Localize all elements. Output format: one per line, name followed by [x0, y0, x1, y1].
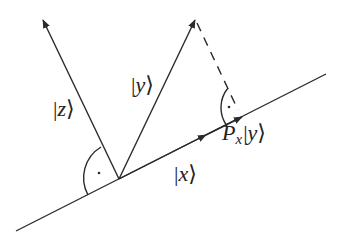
projection-diagram: |z⟩ |y⟩ |x⟩ Px|y⟩	[0, 0, 344, 244]
dashed-projection-line	[197, 23, 238, 110]
vector-y-arrow	[119, 20, 195, 179]
right-angle-arc-origin	[84, 147, 101, 195]
label-x: |x⟩	[174, 161, 197, 186]
diagram-canvas: |z⟩ |y⟩ |x⟩ Px|y⟩	[0, 0, 344, 244]
right-angle-dot-origin	[98, 172, 101, 175]
right-angle-dot-projection	[228, 106, 231, 109]
label-z: |z⟩	[53, 96, 75, 121]
label-projection: Px|y⟩	[221, 120, 266, 147]
label-y: |y⟩	[131, 72, 154, 97]
